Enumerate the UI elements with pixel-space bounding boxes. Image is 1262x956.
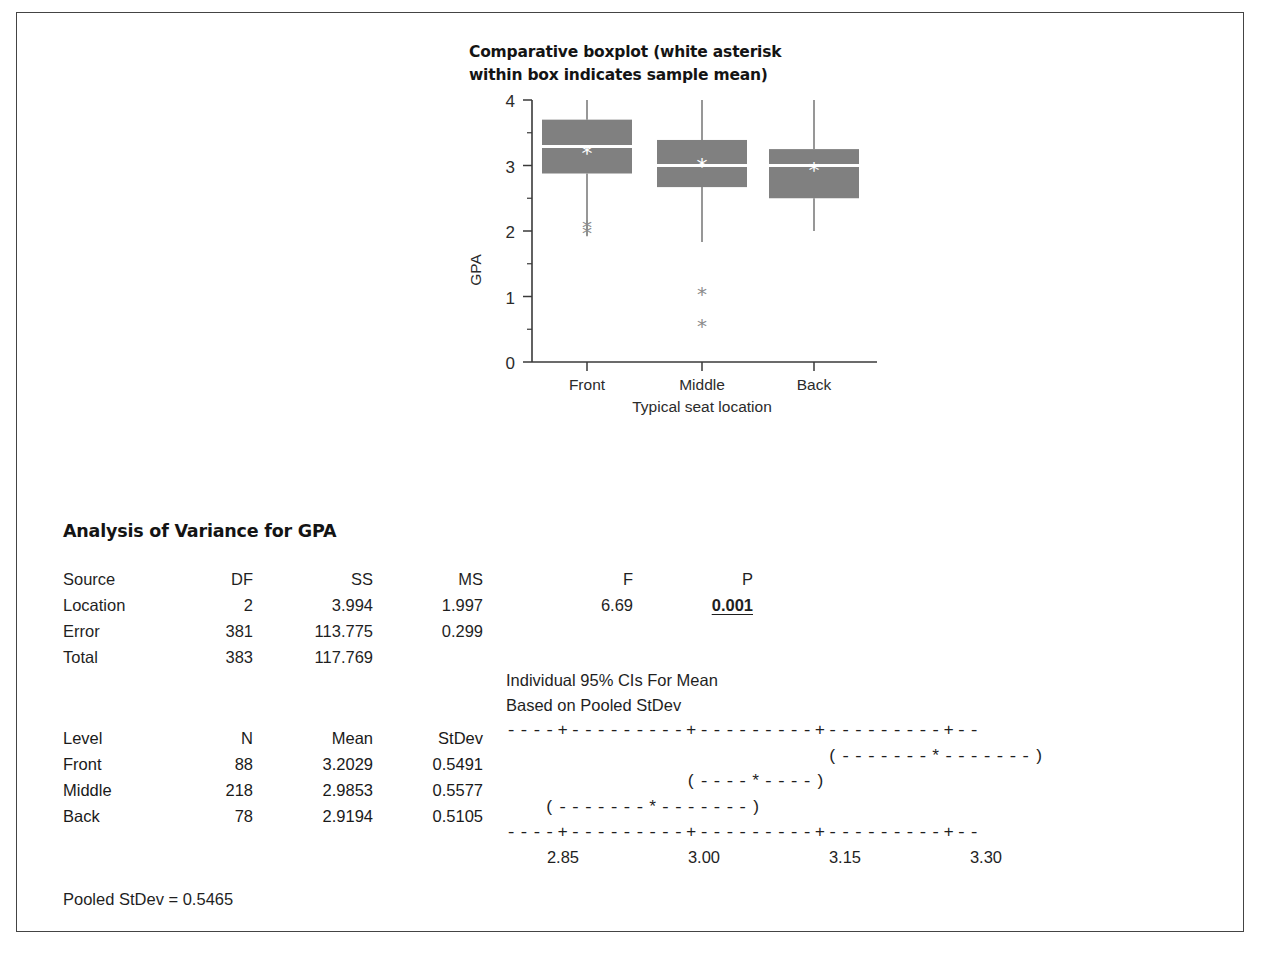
level-header-row: Level N Mean StDev — [63, 725, 483, 751]
anova-col-p: P — [633, 566, 753, 592]
anova-col-ss: SS — [253, 566, 373, 592]
anova-cell-df: 383 — [175, 644, 253, 670]
ci-scale-label-1: 3.00 — [688, 848, 720, 867]
x-axis-ticks — [587, 362, 814, 371]
boxplot-svg: 4 3 2 1 0 GPA — [457, 95, 887, 445]
anova-cell-f — [483, 644, 633, 670]
anova-col-df: DF — [175, 566, 253, 592]
mean-marker-front: * — [582, 141, 593, 166]
level-table: Level N Mean StDev Front 88 3.2029 0.549… — [63, 725, 483, 829]
x-tick-label-front: Front — [569, 376, 606, 393]
boxplot-plot-area: 4 3 2 1 0 GPA — [457, 95, 887, 445]
anova-table: Source DF SS MS F P Location 2 3.994 1.9… — [63, 566, 753, 670]
box-group-middle: * * * — [657, 100, 747, 338]
table-row: Error 381 113.775 0.299 — [63, 618, 753, 644]
level-col-level: Level — [63, 725, 175, 751]
level-col-mean: Mean — [253, 725, 373, 751]
p-value-significant: 0.001 — [712, 596, 753, 614]
anova-cell-ms: 1.997 — [373, 592, 483, 618]
y-axis-major-ticks — [523, 100, 532, 362]
anova-cell-ms — [373, 644, 483, 670]
mean-marker-middle: * — [697, 154, 708, 179]
level-cell-mean: 2.9853 — [253, 777, 373, 803]
mean-marker-back: * — [809, 158, 820, 183]
anova-cell-p: 0.001 — [633, 592, 753, 618]
anova-cell-source: Total — [63, 644, 175, 670]
y-tick-label-0: 0 — [506, 354, 515, 373]
page-root: Comparative boxplot (white asterisk with… — [0, 0, 1262, 956]
table-row: Back 78 2.9194 0.5105 — [63, 803, 483, 829]
ci-scale-label-3: 3.30 — [970, 848, 1002, 867]
level-cell-n: 78 — [175, 803, 253, 829]
anova-cell-df: 381 — [175, 618, 253, 644]
level-col-stdev: StDev — [373, 725, 483, 751]
anova-cell-ss: 3.994 — [253, 592, 373, 618]
ci-scale-labels: 2.85 3.00 3.15 3.30 — [506, 848, 1066, 872]
level-cell-level: Back — [63, 803, 175, 829]
level-cell-stdev: 0.5491 — [373, 751, 483, 777]
anova-cell-source: Location — [63, 592, 175, 618]
ci-scale-label-2: 3.15 — [829, 848, 861, 867]
level-cell-level: Front — [63, 751, 175, 777]
chart-title-line-1: Comparative boxplot (white asterisk — [469, 41, 799, 64]
ci-scale-label-0: 2.85 — [547, 848, 579, 867]
anova-table-wrap: Source DF SS MS F P Location 2 3.994 1.9… — [63, 566, 1223, 670]
anova-cell-df: 2 — [175, 592, 253, 618]
outlier-middle-1: * — [697, 282, 707, 306]
anova-heading: Analysis of Variance for GPA — [63, 521, 336, 541]
anova-cell-p — [633, 644, 753, 670]
level-cell-n: 218 — [175, 777, 253, 803]
ci-interval-back: (-------*-------) — [506, 795, 1066, 821]
anova-cell-ms: 0.299 — [373, 618, 483, 644]
anova-cell-f — [483, 618, 633, 644]
anova-cell-f: 6.69 — [483, 592, 633, 618]
anova-col-ms: MS — [373, 566, 483, 592]
y-tick-label-1: 1 — [506, 289, 515, 308]
table-row: Total 383 117.769 — [63, 644, 753, 670]
box-group-back: * — [769, 100, 859, 231]
table-row: Front 88 3.2029 0.5491 — [63, 751, 483, 777]
content-frame: Comparative boxplot (white asterisk with… — [16, 12, 1244, 932]
level-col-n: N — [175, 725, 253, 751]
outlier-front-2: * — [582, 221, 592, 245]
y-axis-title: GPA — [467, 254, 484, 286]
box-group-front: * * * — [542, 100, 632, 245]
anova-col-source: Source — [63, 566, 175, 592]
y-tick-label-3: 3 — [506, 158, 515, 177]
outlier-middle-2: * — [697, 314, 707, 338]
anova-header-row: Source DF SS MS F P — [63, 566, 753, 592]
anova-cell-source: Error — [63, 618, 175, 644]
x-tick-label-back: Back — [797, 376, 832, 393]
level-table-wrap: Level N Mean StDev Front 88 3.2029 0.549… — [63, 725, 483, 829]
ci-axis-bottom: ----+---------+---------+---------+-- — [506, 820, 1066, 846]
level-cell-n: 88 — [175, 751, 253, 777]
anova-cell-ss: 113.775 — [253, 618, 373, 644]
level-cell-stdev: 0.5577 — [373, 777, 483, 803]
ci-axis-top: ----+---------+---------+---------+-- — [506, 718, 1066, 744]
level-cell-mean: 2.9194 — [253, 803, 373, 829]
table-row: Middle 218 2.9853 0.5577 — [63, 777, 483, 803]
boxplot-figure: Comparative boxplot (white asterisk with… — [457, 41, 887, 471]
anova-cell-p — [633, 618, 753, 644]
x-axis-title: Typical seat location — [632, 398, 772, 415]
pooled-stdev-line: Pooled StDev = 0.5465 — [63, 890, 233, 909]
ci-interval-front: (-------*-------) — [506, 744, 1066, 770]
ci-caption-line-2: Based on Pooled StDev — [506, 693, 1066, 718]
ci-interval-middle: (----*----) — [506, 769, 1066, 795]
level-cell-level: Middle — [63, 777, 175, 803]
table-row: Location 2 3.994 1.997 6.69 0.001 — [63, 592, 753, 618]
ci-caption-line-1: Individual 95% CIs For Mean — [506, 668, 1066, 693]
chart-title-line-2: within box indicates sample mean) — [469, 64, 799, 87]
chart-title: Comparative boxplot (white asterisk with… — [469, 41, 799, 87]
confidence-interval-panel: Individual 95% CIs For Mean Based on Poo… — [506, 668, 1066, 872]
x-tick-label-middle: Middle — [679, 376, 725, 393]
level-cell-mean: 3.2029 — [253, 751, 373, 777]
y-tick-label-4: 4 — [506, 95, 515, 111]
y-tick-label-2: 2 — [506, 223, 515, 242]
anova-cell-ss: 117.769 — [253, 644, 373, 670]
level-cell-stdev: 0.5105 — [373, 803, 483, 829]
anova-col-f: F — [483, 566, 633, 592]
